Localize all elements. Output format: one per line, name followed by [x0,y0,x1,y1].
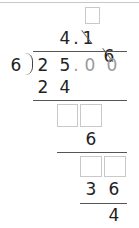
divisor: 6 [9,56,23,74]
subtraction-line [57,152,127,153]
top-divider [0,2,139,3]
dividend-digit-placeholder: 0 [83,56,97,74]
quotient-answer-box[interactable] [85,7,100,24]
dividend-digit: 2 [36,56,50,74]
final-remainder: 4 [107,206,121,224]
subtract-digit: 2 [36,78,50,96]
subtract-digit: 3 [84,180,98,198]
subtraction-line [33,100,127,101]
remainder-answer-box[interactable] [80,104,102,127]
bring-down-answer-box[interactable] [104,156,126,177]
subtract-digit: 4 [58,78,72,96]
division-bracket [25,53,33,75]
bring-down-answer-box[interactable] [80,156,102,177]
dividend-digit-placeholder: 0 [105,56,119,74]
subtraction-line [80,203,127,204]
quotient-digit-crossed: 1 [81,29,95,47]
subtract-digit: 6 [107,180,121,198]
division-bar [33,51,127,52]
remainder-digit: 6 [84,130,98,148]
remainder-answer-box[interactable] [57,104,78,127]
dividend-decimal-point: . [69,56,83,74]
